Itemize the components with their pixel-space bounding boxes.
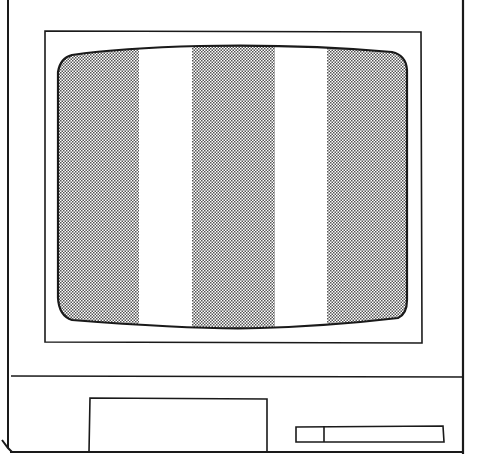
bar-5: [327, 40, 408, 335]
monitor-illustration: monitor with test pattern: [0, 0, 478, 466]
divider-line: [11, 376, 463, 377]
screen: [57, 40, 408, 335]
monitor-drawing: [0, 0, 478, 466]
bar-2: [139, 40, 192, 335]
drive-slot: [296, 426, 444, 442]
bar-3: [192, 40, 275, 335]
bar-4: [275, 40, 327, 335]
front-panel: [89, 398, 267, 452]
bar-1: [57, 40, 139, 335]
